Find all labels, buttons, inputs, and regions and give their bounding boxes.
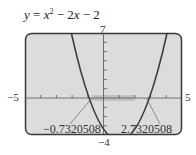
xmax-label: 5: [185, 92, 191, 103]
ymax-label: 7: [100, 24, 106, 35]
xmin-label: −5: [7, 92, 19, 103]
ymin-label: −4: [98, 137, 110, 148]
left-root-label: −0.7320508: [43, 123, 101, 135]
right-root-label: 2.7320508: [121, 123, 172, 135]
